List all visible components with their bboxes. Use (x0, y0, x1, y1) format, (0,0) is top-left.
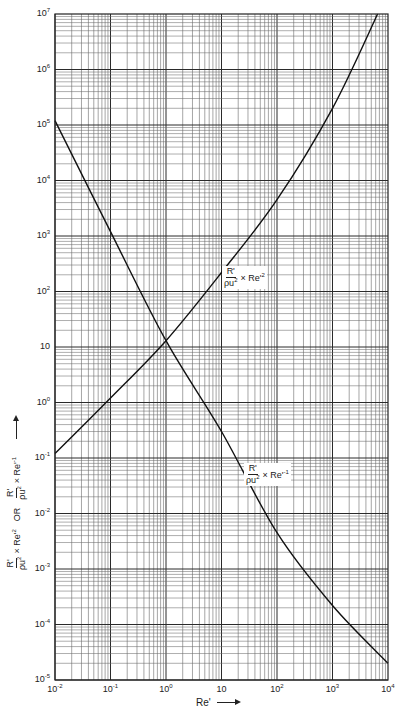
y-label-part1: × Re'2 (12, 529, 22, 553)
fraction: R' ρu2 (224, 267, 237, 288)
x-tick-label: 103 (318, 684, 348, 694)
y-label-or: OR (12, 508, 22, 522)
x-tick-label: 10-1 (96, 684, 126, 694)
y-tick-label: 103 (20, 230, 50, 240)
y-tick-label: 100 (20, 397, 50, 407)
x-axis-label: Re' (196, 697, 239, 708)
y-tick-label: 102 (20, 286, 50, 296)
curve-label-re-inverse: R' ρu2 × Re'-1 (244, 463, 291, 486)
x-tick-label: 102 (262, 684, 292, 694)
x-tick-label: 104 (373, 684, 403, 694)
arrow-up-icon (16, 417, 18, 439)
chart-plot (0, 0, 407, 718)
fraction: R' ρu2 (6, 557, 27, 570)
arrow-right-icon (217, 702, 239, 704)
x-tick-label: 10-2 (40, 684, 70, 694)
y-tick-label: 105 (20, 119, 50, 129)
y-tick-label: 10-5 (20, 674, 50, 684)
y-tick-label: 104 (20, 175, 50, 185)
label-suffix: × Re'2 (240, 273, 264, 283)
y-tick-label: 10 (20, 341, 50, 351)
y-axis-label: R' ρu2 × Re'2 OR R' ρu2 × Re'-1 (6, 417, 27, 570)
fraction-denominator: ρu2 (224, 278, 237, 288)
y-label-part2: × Re'-1 (12, 457, 22, 483)
y-tick-label: 10-4 (20, 619, 50, 629)
y-tick-label: 107 (20, 8, 50, 18)
grid-lines (55, 14, 388, 680)
label-suffix: × Re'-1 (262, 470, 288, 480)
fraction: R' ρu2 (246, 464, 259, 485)
x-tick-label: 100 (151, 684, 181, 694)
y-tick-label: 106 (20, 64, 50, 74)
x-tick-label: 10 (207, 684, 237, 694)
x-axis-label-text: Re' (196, 697, 211, 708)
fraction-denominator: ρu2 (246, 475, 259, 485)
fraction: R' ρu2 (6, 486, 27, 499)
curve-label-re-squared: R' ρu2 × Re'2 (222, 266, 267, 289)
